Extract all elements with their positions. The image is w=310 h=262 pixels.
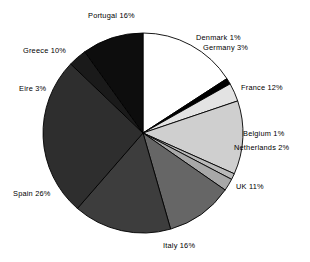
slice-label-denmark: Denmark 1%: [196, 33, 241, 42]
pie-chart-figure: Portugal 16% Denmark 1% Germany 3% Franc…: [0, 0, 310, 262]
slice-label-france: France 12%: [241, 83, 283, 92]
slice-label-eire: Eire 3%: [19, 84, 46, 93]
slice-label-uk: UK 11%: [236, 182, 264, 191]
slice-label-portugal: Portugal 16%: [88, 11, 135, 20]
slice-label-netherlands: Netherlands 2%: [234, 143, 289, 152]
pie-slice-group: [43, 33, 243, 233]
slice-label-belgium: Belgium 1%: [243, 129, 284, 138]
slice-label-italy: Italy 16%: [163, 241, 195, 250]
slice-label-spain: Spain 26%: [13, 189, 51, 198]
slice-label-germany: Germany 3%: [203, 43, 248, 52]
slice-label-greece: Greece 10%: [23, 46, 66, 55]
